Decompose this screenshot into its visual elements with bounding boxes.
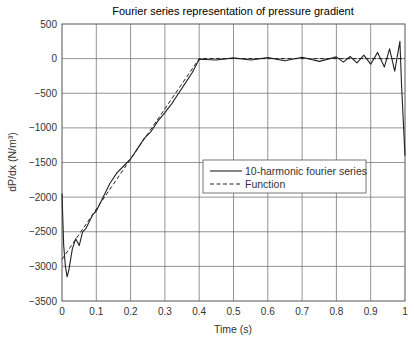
x-tick-label: 0.8: [329, 306, 343, 317]
x-axis-label: Time (s): [214, 323, 252, 335]
y-tick-label: −3500: [29, 296, 58, 307]
x-tick-label: 0.9: [364, 306, 378, 317]
chart: Fourier series representation of pressur…: [0, 0, 414, 345]
y-tick-label: −1000: [29, 122, 58, 133]
x-tick-label: 1: [402, 306, 408, 317]
y-tick-label: −500: [34, 88, 57, 99]
y-tick-label: −2000: [29, 192, 58, 203]
x-tick-label: 0.6: [261, 306, 275, 317]
legend-item-fourier: 10-harmonic fourier series: [245, 165, 367, 177]
x-tick-label: 0.7: [295, 306, 309, 317]
x-tick-label: 0.1: [89, 306, 103, 317]
y-tick-label: 500: [40, 19, 57, 30]
x-tick-label: 0.5: [227, 306, 241, 317]
x-tick-label: 0: [59, 306, 65, 317]
y-tick-label: 0: [51, 53, 57, 64]
y-tick-label: −2500: [29, 226, 58, 237]
x-axis-ticks: 00.10.20.30.40.50.60.70.80.91: [59, 306, 408, 317]
y-tick-label: −3000: [29, 261, 58, 272]
chart-title: Fourier series representation of pressur…: [112, 5, 354, 17]
x-tick-label: 0.2: [124, 306, 138, 317]
legend: 10-harmonic fourier series Function: [203, 160, 367, 193]
y-tick-label: −1500: [29, 157, 58, 168]
x-tick-label: 0.4: [192, 306, 206, 317]
y-axis-ticks: 5000−500−1000−1500−2000−2500−3000−3500: [29, 19, 58, 307]
y-axis-label: dP/dx (N/m³): [6, 132, 18, 192]
legend-item-function: Function: [245, 178, 285, 190]
x-tick-label: 0.3: [158, 306, 172, 317]
